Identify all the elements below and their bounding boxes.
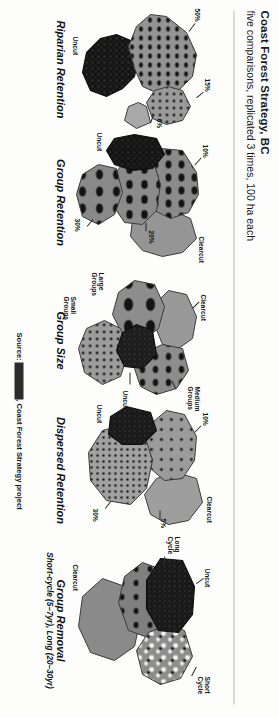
label-large-groups: Large Groups	[90, 272, 104, 295]
label-clearcut: Clearcut	[197, 236, 204, 262]
label-30-percent: 30%	[73, 218, 80, 231]
group-removal-diagram: Uncut Short Cycle Long Cycle Clearcut	[66, 534, 226, 706]
label-short-cycle: Short Cycle	[196, 676, 210, 694]
group-removal-caption: Group Removal Short-cycle (5–7yr), Long …	[43, 534, 66, 706]
group-retention-diagram: 10% 20% 30% Uncut Clearcut	[66, 132, 226, 272]
label-50-percent: 50%	[193, 8, 200, 21]
title-block: Coast Forest Strategy, BC five compariso…	[243, 10, 270, 241]
riparian-retention-caption: Riparian Retention	[54, 6, 66, 132]
group-removal-caption-text: Group Removal	[54, 579, 66, 661]
source-rest: , Coast Forest Strategy project	[14, 399, 23, 510]
label-15-percent: 15%	[203, 78, 210, 91]
group-size-caption: Group Size	[54, 272, 66, 408]
riparian-svg	[66, 6, 226, 132]
scanned-slide-page: Coast Forest Strategy, BC five compariso…	[0, 0, 278, 717]
label-uncut: Uncut	[95, 132, 102, 151]
dispersed-retention-caption-text: Dispersed Retention	[54, 417, 66, 524]
label-uncut: Uncut	[95, 404, 102, 423]
panel-dispersed-retention: 10% 5% 30% Uncut Clearcut Dispersed Rete…	[2, 404, 226, 536]
label-clearcut: Clearcut	[205, 496, 212, 522]
label-uncut: Uncut	[203, 568, 210, 587]
label-long-cycle-line1: Long	[173, 536, 180, 552]
label-large-groups-line1: Large	[97, 272, 104, 290]
group-retention-caption: Group Retention	[54, 132, 66, 272]
label-clearcut: Clearcut	[199, 294, 206, 320]
label-small-groups-line1: Small	[69, 296, 76, 314]
label-6-percent: 6%	[155, 118, 162, 128]
label-20-percent: 20%	[147, 230, 154, 243]
group-size-diagram: Large Groups Medium Groups Small Groups …	[66, 272, 226, 408]
panel-riparian-retention: 50% 15% 6% Uncut Riparian Retention	[2, 6, 226, 132]
label-10-percent: 10%	[201, 144, 208, 157]
label-short-cycle-line1: Short	[203, 676, 210, 693]
page-subtitle: five comparisons, replicated 3 times, 10…	[243, 10, 256, 241]
slide-canvas: Coast Forest Strategy, BC five compariso…	[0, 0, 278, 717]
label-long-cycle-line2: Cycle	[166, 536, 173, 554]
panel-group-removal: Uncut Short Cycle Long Cycle Clearcut Gr…	[2, 534, 226, 706]
label-long-cycle: Long Cycle	[166, 536, 180, 554]
leader-line	[145, 222, 146, 231]
page-title: Coast Forest Strategy, BC	[257, 10, 270, 241]
label-short-cycle-line2: Cycle	[196, 676, 203, 694]
label-clearcut: Clearcut	[71, 564, 78, 590]
label-10-percent: 10%	[201, 412, 208, 425]
source-credit: Source: Bill Beese, Coast Forest Strateg…	[14, 332, 23, 509]
leader-line	[159, 510, 160, 519]
label-uncut: Uncut	[71, 36, 78, 55]
header-divider	[233, 10, 234, 704]
leader-line	[129, 372, 130, 384]
label-30-percent: 30%	[91, 508, 98, 521]
group-removal-subcaption: Short-cycle (5–7yr), Long (20–30yr)	[43, 534, 53, 706]
dispersed-retention-caption: Dispersed Retention	[54, 404, 66, 536]
source-author-redacted: Bill Beese	[14, 362, 23, 398]
panel-group-retention: 10% 20% 30% Uncut Clearcut Group Retenti…	[2, 132, 226, 272]
riparian-retention-diagram: 50% 15% 6% Uncut	[66, 6, 226, 132]
source-prefix: Source:	[14, 332, 23, 360]
dispersed-retention-diagram: 10% 5% 30% Uncut Clearcut	[66, 404, 226, 536]
label-large-groups-line2: Groups	[90, 272, 97, 295]
panel-group-size: Large Groups Medium Groups Small Groups …	[2, 272, 226, 408]
